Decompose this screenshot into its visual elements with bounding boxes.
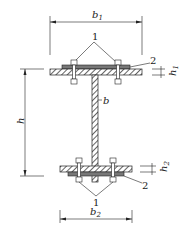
web-thickness-label: b bbox=[103, 95, 109, 106]
h2-label: h2 bbox=[158, 161, 171, 172]
h1-dimension: h1 bbox=[152, 65, 180, 78]
callout-2-bottom-label: 2 bbox=[142, 180, 148, 191]
top-cover-plate bbox=[62, 65, 130, 69]
callout-bolt-top: 1 bbox=[74, 31, 116, 62]
bottom-flange bbox=[60, 166, 132, 172]
b2-dimension: b2 bbox=[60, 206, 132, 223]
callout-1-top-label: 1 bbox=[92, 31, 98, 42]
h-label: h bbox=[15, 118, 26, 124]
b2-label: b2 bbox=[90, 206, 101, 219]
h-dimension: h bbox=[15, 69, 44, 176]
callout-plate-top: 2 bbox=[130, 55, 156, 67]
callout-2-top-label: 2 bbox=[150, 55, 156, 66]
top-flange bbox=[50, 69, 142, 75]
ibeam-reinforcement-diagram: b1 1 2 h1 b h bbox=[0, 0, 186, 235]
b1-label: b1 bbox=[92, 9, 103, 22]
h2-dimension: h2 bbox=[140, 161, 171, 175]
h1-label: h1 bbox=[167, 65, 180, 76]
callout-plate-bottom: 2 bbox=[124, 176, 148, 191]
bottom-cover-plate bbox=[68, 172, 124, 176]
callout-bolt-bottom: 1 bbox=[79, 182, 113, 208]
